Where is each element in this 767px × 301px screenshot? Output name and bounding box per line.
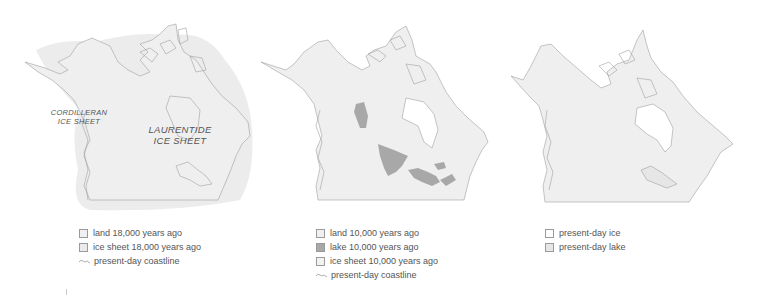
tick-mark bbox=[66, 289, 67, 295]
legend-item-ice-sheet: ice sheet 10,000 years ago bbox=[316, 254, 438, 268]
map-present-day bbox=[511, 0, 767, 215]
legend-label: ice sheet 10,000 years ago bbox=[330, 254, 438, 268]
coastline-icon bbox=[79, 257, 90, 265]
laurentide-ice-sheet-label: LAURENTIDE ICE SHEET bbox=[144, 124, 216, 146]
legend-10000-years-ago: land 10,000 years ago lake 10,000 years … bbox=[316, 226, 438, 282]
lake-swatch-icon bbox=[545, 243, 554, 252]
legend-item-land: land 10,000 years ago bbox=[316, 226, 438, 240]
land-swatch-icon bbox=[79, 229, 88, 238]
panel-10000-years-ago: land 10,000 years ago lake 10,000 years … bbox=[256, 0, 512, 301]
legend-present-day: present-day ice present-day lake bbox=[545, 226, 626, 254]
laurentide-label-line1: LAURENTIDE bbox=[144, 124, 216, 135]
coastline-icon bbox=[316, 271, 327, 279]
legend-label: land 18,000 years ago bbox=[93, 226, 182, 240]
cordilleran-label-line1: CORDILLERAN bbox=[46, 108, 112, 117]
cordilleran-ice-sheet-label: CORDILLERAN ICE SHEET bbox=[46, 108, 112, 126]
ice-swatch-icon bbox=[545, 229, 554, 238]
land-swatch-icon bbox=[316, 229, 325, 238]
ice-sheet-swatch-icon bbox=[316, 257, 325, 266]
ice-sheet-swatch-icon bbox=[79, 243, 88, 252]
panel-present-day: present-day ice present-day lake bbox=[511, 0, 767, 301]
legend-label: ice sheet 18,000 years ago bbox=[93, 240, 201, 254]
panel-18000-years-ago: CORDILLERAN ICE SHEET LAURENTIDE ICE SHE… bbox=[0, 0, 256, 301]
legend-label: lake 10,000 years ago bbox=[330, 240, 419, 254]
cordilleran-label-line2: ICE SHEET bbox=[46, 117, 112, 126]
legend-label: present-day coastline bbox=[94, 254, 180, 268]
legend-item-coastline: present-day coastline bbox=[79, 254, 201, 268]
laurentide-label-line2: ICE SHEET bbox=[144, 135, 216, 146]
legend-label: land 10,000 years ago bbox=[330, 226, 419, 240]
legend-item-present-ice: present-day ice bbox=[545, 226, 626, 240]
legend-label: present-day lake bbox=[559, 240, 626, 254]
legend-18000-years-ago: land 18,000 years ago ice sheet 18,000 y… bbox=[79, 226, 201, 268]
lake-swatch-icon bbox=[316, 243, 325, 252]
map-10000-years-ago bbox=[256, 0, 512, 215]
legend-item-land: land 18,000 years ago bbox=[79, 226, 201, 240]
legend-item-coastline: present-day coastline bbox=[316, 268, 438, 282]
legend-label: present-day coastline bbox=[331, 268, 417, 282]
legend-label: present-day ice bbox=[559, 226, 621, 240]
legend-item-ice-sheet: ice sheet 18,000 years ago bbox=[79, 240, 201, 254]
legend-item-lake: lake 10,000 years ago bbox=[316, 240, 438, 254]
legend-item-present-lake: present-day lake bbox=[545, 240, 626, 254]
map-18000-years-ago bbox=[0, 0, 256, 215]
